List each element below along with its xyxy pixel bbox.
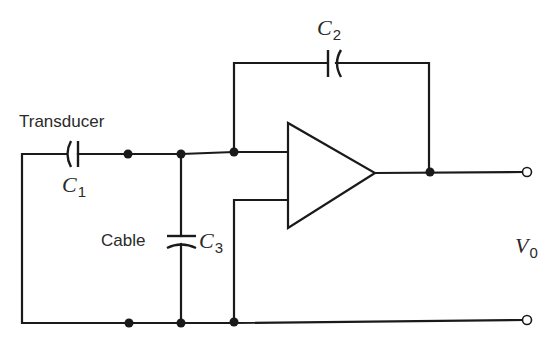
capacitor-c1: [68, 141, 79, 167]
junction-dot: [426, 168, 435, 177]
wire-output: [375, 172, 523, 173]
junction-dot: [124, 150, 133, 159]
wire-ground: [234, 320, 523, 323]
c2-label: C2: [317, 17, 341, 42]
junction-dot: [230, 318, 239, 327]
junction-dot: [230, 148, 239, 157]
junction-dot: [125, 319, 134, 328]
junction-dot: [177, 150, 186, 159]
output-terminal-top: [523, 168, 532, 177]
transducer-label: Transducer: [19, 113, 104, 130]
circuit-schematic: [0, 0, 554, 345]
junction-dot: [177, 319, 186, 328]
op-amp: [288, 123, 375, 228]
wire-noninverting: [234, 200, 288, 323]
cable-label: Cable: [101, 232, 145, 249]
c3-label: C3: [199, 230, 223, 255]
output-terminal-bottom: [523, 316, 532, 325]
c1-label: C1: [62, 174, 86, 199]
vout-label: V0: [515, 235, 538, 260]
